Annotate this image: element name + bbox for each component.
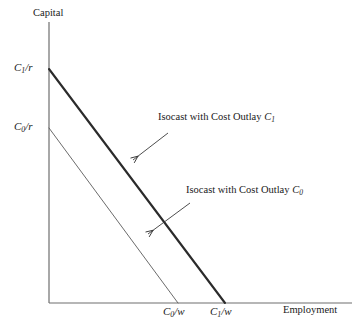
x-axis-title: Employment [283, 305, 337, 316]
x-tick-c0-rest: /w [174, 305, 184, 317]
y-tick-c0-rest: /r [25, 120, 32, 132]
y-tick-label-c1-over-r: C1/r [14, 62, 33, 75]
annotation-isocost-c1: Isocast with Cost Outlay C1 [158, 112, 275, 124]
x-tick-label-c0-over-w: C0/w [163, 306, 185, 319]
y-axis-title: Capital [33, 8, 63, 19]
x-tick-c1-rest: /w [221, 305, 231, 317]
isocost-diagram: Capital Employment C1/r C0/r C0/w C1/w I… [0, 0, 359, 328]
diagram-canvas [0, 0, 359, 328]
y-tick-c1-rest: /r [25, 61, 32, 73]
y-tick-label-c0-over-r: C0/r [14, 121, 33, 134]
annotation-c0-subscript: 0 [299, 188, 303, 197]
annotation-isocost-c0: Isocast with Cost Outlay C0 [186, 185, 303, 197]
annotation-c1-subscript: 1 [271, 115, 275, 124]
x-tick-label-c1-over-w: C1/w [210, 306, 232, 319]
annotation-c1-text: Isocast with Cost Outlay [158, 111, 264, 122]
arrow-to-isocost-c1 [133, 133, 168, 160]
annotation-c0-text: Isocast with Cost Outlay [186, 184, 292, 195]
